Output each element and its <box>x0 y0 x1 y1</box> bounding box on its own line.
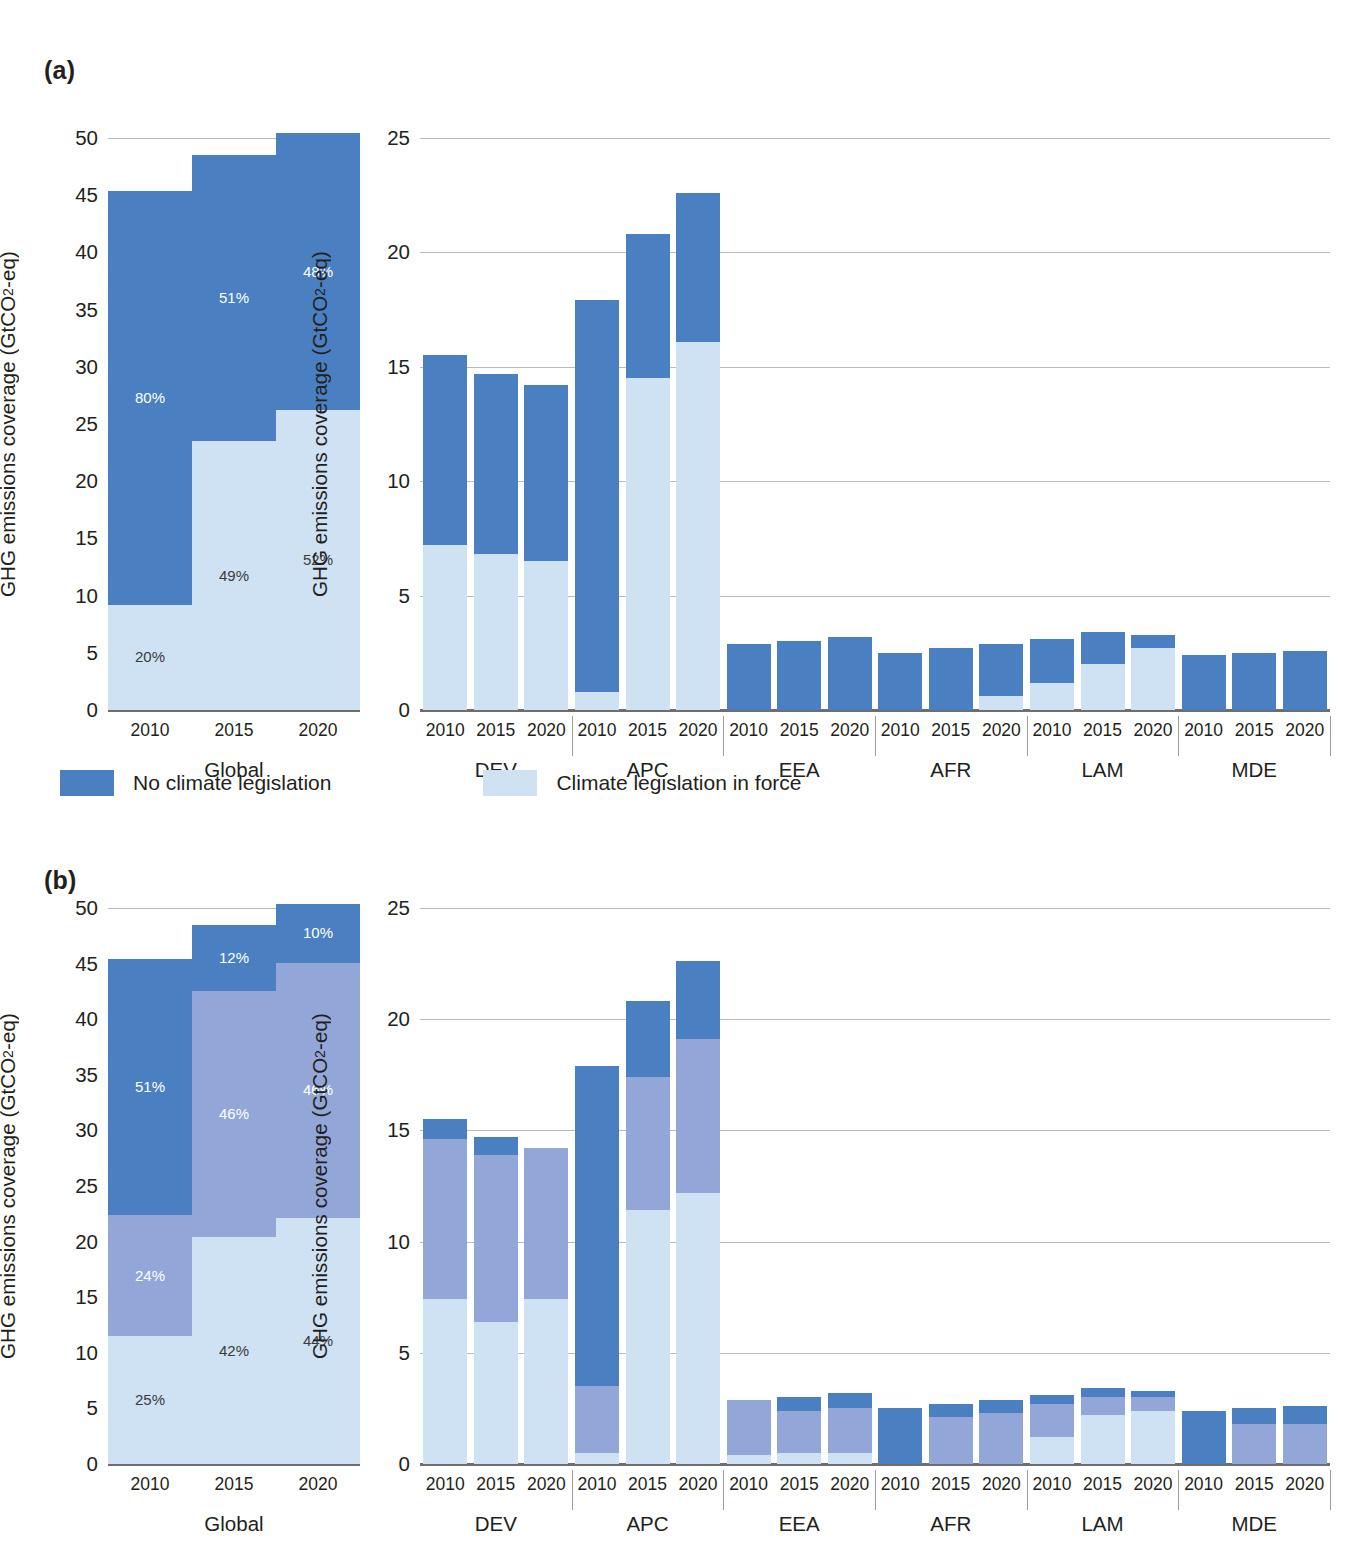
bar-segment <box>575 1386 619 1453</box>
bar-segment <box>1182 1411 1226 1464</box>
bar-segment <box>474 1155 518 1322</box>
bar-segment <box>474 1137 518 1155</box>
bar-segment <box>828 1453 872 1464</box>
bar-segment <box>1232 1408 1276 1424</box>
x-axis-group-label: DEV <box>426 1514 566 1535</box>
bar-segment <box>423 1139 467 1299</box>
y-axis-tick-label: 5 <box>368 1343 410 1364</box>
gridline <box>420 1019 1330 1020</box>
bar-segment <box>878 1408 922 1464</box>
y-axis-tick-label: 0 <box>368 1454 410 1475</box>
y-axis-label: GHG emissions coverage (GtCO2-eq) <box>308 908 332 1464</box>
x-axis-group-label: LAM <box>1033 1514 1173 1535</box>
bar-segment <box>423 1299 467 1464</box>
gridline <box>420 908 1330 909</box>
bar-segment <box>626 1210 670 1464</box>
bar-segment <box>1030 1395 1074 1404</box>
bar-segment <box>1030 1437 1074 1464</box>
group-separator <box>572 1470 573 1510</box>
bar-segment <box>929 1417 973 1464</box>
group-separator <box>723 1470 724 1510</box>
bar-segment <box>1081 1415 1125 1464</box>
group-separator <box>875 1470 876 1510</box>
x-axis-group-label: EEA <box>729 1514 869 1535</box>
bar-segment <box>676 1039 720 1192</box>
bar-segment <box>423 1119 467 1139</box>
bar-segment <box>474 1322 518 1464</box>
group-separator <box>1178 1470 1179 1510</box>
bar-segment <box>626 1077 670 1210</box>
bar-segment <box>626 1001 670 1077</box>
x-axis-group-label: APC <box>578 1514 718 1535</box>
bar-segment <box>676 961 720 1039</box>
bar-segment <box>676 1193 720 1464</box>
group-separator <box>1027 1470 1028 1510</box>
bar-segment <box>727 1455 771 1464</box>
bar-segment <box>524 1299 568 1464</box>
x-axis-group-label: AFR <box>881 1514 1021 1535</box>
bar-segment <box>575 1453 619 1464</box>
bar-segment <box>1030 1404 1074 1437</box>
bar-segment <box>1232 1424 1276 1464</box>
bar-segment <box>1131 1411 1175 1464</box>
bar-segment <box>1131 1391 1175 1398</box>
y-axis-tick-label: 20 <box>368 1009 410 1030</box>
chart-b-regions: GHG emissions coverage (GtCO2-eq)0510152… <box>0 0 1346 1559</box>
group-separator <box>1330 1470 1331 1510</box>
bar-segment <box>777 1397 821 1410</box>
y-axis-tick-label: 15 <box>368 1120 410 1141</box>
x-axis-tick-label: 2020 <box>1265 1476 1345 1494</box>
bar-segment <box>777 1411 821 1453</box>
y-axis-tick-label: 10 <box>368 1232 410 1253</box>
bar-segment <box>1081 1397 1125 1415</box>
bar-segment <box>777 1453 821 1464</box>
bar-segment <box>1081 1388 1125 1397</box>
plot-area <box>420 908 1330 1464</box>
x-axis-group-label: MDE <box>1184 1514 1324 1535</box>
gridline <box>420 1130 1330 1131</box>
bar-segment <box>575 1066 619 1386</box>
bar-segment <box>979 1400 1023 1413</box>
bar-segment <box>979 1413 1023 1464</box>
bar-segment <box>1283 1406 1327 1424</box>
bar-segment <box>828 1408 872 1452</box>
bar-segment <box>828 1393 872 1409</box>
bar-segment <box>727 1400 771 1456</box>
bar-segment <box>1283 1424 1327 1464</box>
y-axis-tick-label: 25 <box>368 898 410 919</box>
bar-segment <box>524 1148 568 1299</box>
bar-segment <box>929 1404 973 1417</box>
bar-segment <box>1131 1397 1175 1410</box>
